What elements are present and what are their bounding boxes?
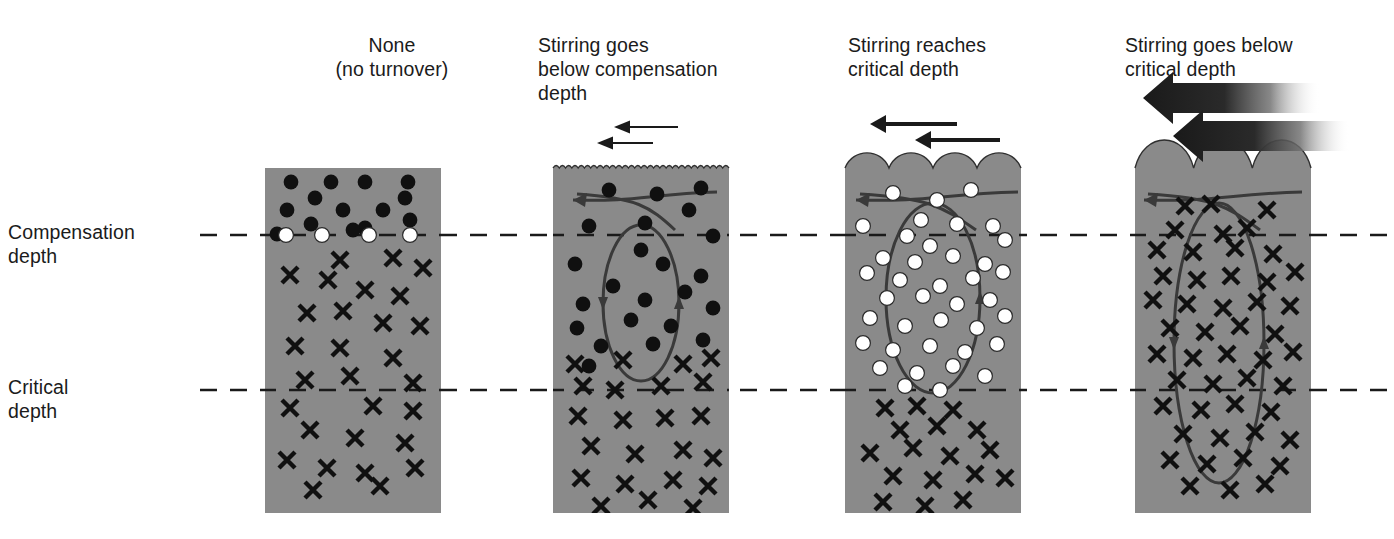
open-dot	[914, 213, 929, 228]
open-dot	[873, 361, 888, 376]
filled-dot	[606, 279, 621, 294]
open-dot	[990, 337, 1005, 352]
filled-dot	[324, 175, 339, 190]
filled-dot	[576, 297, 591, 312]
filled-dot	[624, 313, 639, 328]
filled-dot	[694, 181, 709, 196]
filled-dot	[650, 187, 665, 202]
open-dot	[916, 289, 931, 304]
open-dot	[986, 219, 1001, 234]
filled-dot	[568, 257, 583, 272]
filled-dot	[638, 216, 653, 231]
open-dot	[898, 319, 913, 334]
open-dot	[908, 255, 923, 270]
open-dot	[886, 343, 901, 358]
open-dot	[998, 233, 1013, 248]
open-dot	[279, 228, 294, 243]
column-header-below-critical: Stirring goes below critical depth	[1125, 33, 1355, 81]
filled-dot	[696, 333, 711, 348]
filled-dot	[634, 243, 649, 258]
column-header-reaches-critical: Stirring reaches critical depth	[848, 33, 1058, 81]
water-column-below-compensation	[547, 121, 735, 517]
open-dot	[923, 339, 938, 354]
open-dot	[978, 257, 993, 272]
open-dot	[893, 273, 908, 288]
open-dot	[860, 266, 875, 281]
open-dot	[362, 228, 377, 243]
filled-dot	[346, 223, 361, 238]
surface-arrow	[597, 137, 653, 150]
open-dot	[934, 313, 949, 328]
water-column-reaches-critical	[839, 115, 1027, 514]
filled-dot	[706, 301, 721, 316]
filled-dot	[646, 337, 661, 352]
filled-dot	[594, 339, 609, 354]
filled-dot	[682, 203, 697, 218]
water-column-none	[259, 168, 447, 513]
open-dot	[856, 219, 871, 234]
column-header-below-compensation: Stirring goes below compensation depth	[538, 33, 768, 105]
filled-dot	[706, 229, 721, 244]
open-dot	[946, 249, 961, 264]
diagram-canvas: None (no turnover)Stirring goes below co…	[0, 0, 1394, 539]
filled-dot	[284, 175, 299, 190]
filled-dot	[376, 203, 391, 218]
surface-arrow	[915, 131, 1000, 149]
filled-dot	[694, 269, 709, 284]
filled-dot	[403, 213, 418, 228]
open-dot	[880, 291, 895, 306]
open-dot	[950, 297, 965, 312]
column-header-none: None (no turnover)	[312, 33, 472, 81]
depth-label-critical: Critical depth	[8, 375, 68, 423]
filled-dot	[401, 175, 416, 190]
filled-dot	[656, 257, 671, 272]
filled-dot	[638, 293, 653, 308]
open-dot	[970, 321, 985, 336]
open-dot	[856, 336, 871, 351]
filled-dot	[602, 183, 617, 198]
open-dot	[996, 265, 1011, 280]
surface-arrow	[870, 115, 957, 133]
open-dot	[983, 293, 998, 308]
filled-dot	[570, 321, 585, 336]
open-dot	[900, 229, 915, 244]
open-dot	[946, 359, 961, 374]
filled-dot	[358, 175, 373, 190]
open-dot	[958, 345, 973, 360]
open-dot	[898, 379, 913, 394]
open-dot	[978, 369, 993, 384]
filled-dot	[582, 219, 597, 234]
depth-label-compensation: Compensation depth	[8, 220, 135, 268]
filled-dot	[336, 203, 351, 218]
water-column-below-critical	[1129, 72, 1350, 513]
open-dot	[998, 309, 1013, 324]
open-dot	[950, 217, 965, 232]
filled-dot	[678, 285, 693, 300]
open-dot	[933, 383, 948, 398]
open-dot	[933, 279, 948, 294]
filled-dot	[664, 319, 679, 334]
open-dot	[315, 228, 330, 243]
open-dot	[964, 183, 979, 198]
open-dot	[930, 193, 945, 208]
filled-dot	[304, 217, 319, 232]
filled-dot	[280, 203, 295, 218]
open-dot	[886, 186, 901, 201]
filled-dot	[308, 191, 323, 206]
open-dot	[876, 251, 891, 266]
open-dot	[910, 366, 925, 381]
surface-arrow	[614, 121, 678, 134]
open-dot	[863, 311, 878, 326]
open-dot	[403, 228, 418, 243]
filled-dot	[582, 359, 597, 374]
open-dot	[923, 239, 938, 254]
filled-dot	[398, 191, 413, 206]
open-dot	[966, 271, 981, 286]
